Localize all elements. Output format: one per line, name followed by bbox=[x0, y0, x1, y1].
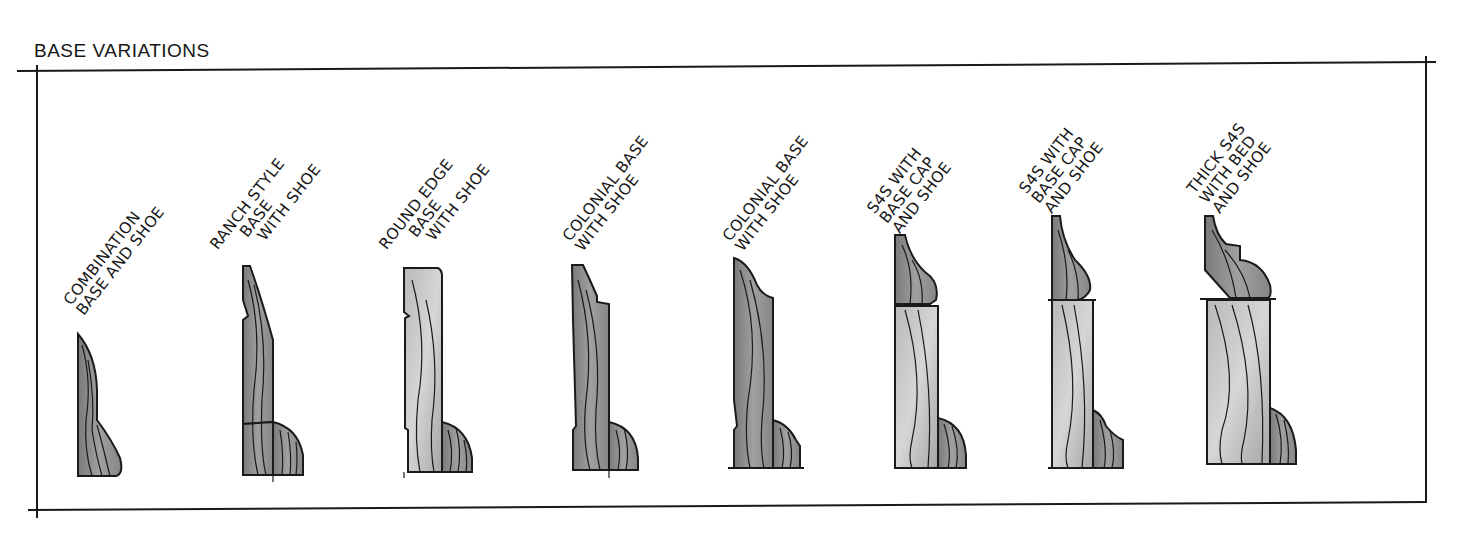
profile-ranch bbox=[243, 266, 303, 482]
profile-round-edge bbox=[404, 268, 472, 478]
profile-colonial-1 bbox=[572, 265, 638, 478]
profile-combination bbox=[78, 334, 121, 476]
diagram-canvas bbox=[0, 0, 1474, 536]
profile-s4s-basecap-1 bbox=[895, 235, 966, 468]
profile-thick-s4s bbox=[1200, 216, 1296, 464]
profile-s4s-basecap-2 bbox=[1048, 216, 1124, 468]
profile-colonial-2 bbox=[728, 258, 804, 468]
